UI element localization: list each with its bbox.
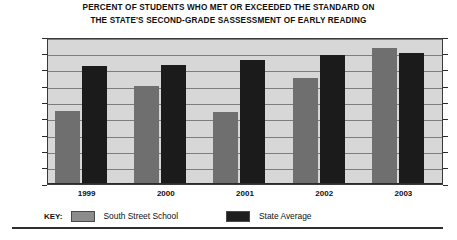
bar-2000-south-street-school [134,86,159,184]
x-tick-label-1999: 1999 [47,189,127,198]
bar-2002-south-street-school [293,78,318,184]
bar-2001-south-street-school [213,112,238,184]
legend-item-south-street-school: South Street School [71,211,179,222]
x-tick-label-2001: 2001 [205,189,285,198]
bar-group-2002 [286,39,365,184]
legend-swatch-state-average [226,211,250,222]
chart-plot-wrapper: 90%80%70%60%50%40%30%20%10%0% [47,38,443,185]
y-tick-mark-left-30 [42,136,47,137]
legend-label-south-street-school: South Street School [104,211,179,221]
y-tick-mark-right-60 [443,87,448,88]
legend-swatch-south-street-school [71,211,95,222]
y-tick-mark-left-40 [42,119,47,120]
bar-group-1999 [48,39,127,184]
y-tick-mark-right-10 [443,168,448,169]
x-tick-label-2000: 2000 [126,189,206,198]
y-tick-mark-left-10 [42,168,47,169]
y-tick-mark-left-0 [42,185,47,186]
y-tick-mark-left-70 [42,70,47,71]
y-tick-mark-right-30 [443,136,448,137]
bar-group-2000 [127,39,206,184]
bar-2001-state-average [240,60,265,184]
x-axis-baseline [48,183,442,184]
y-tick-mark-right-20 [443,152,448,153]
y-tick-mark-right-50 [443,103,448,104]
bar-1999-south-street-school [55,111,80,185]
bar-2003-state-average [399,53,424,184]
y-tick-mark-left-50 [42,103,47,104]
legend-key-label: KEY: [44,212,63,221]
bar-1999-state-average [82,66,107,184]
legend-label-state-average: State Average [259,211,311,221]
x-tick-label-2002: 2002 [284,189,364,198]
y-tick-mark-right-40 [443,119,448,120]
y-tick-mark-left-60 [42,87,47,88]
chart-title-line-2: THE STATE'S SECOND-GRADE SASSESSMENT OF … [0,15,457,28]
y-tick-mark-right-70 [443,70,448,71]
bar-2002-state-average [320,55,345,184]
y-tick-mark-left-90 [42,38,47,39]
legend-item-state-average: State Average [226,211,311,222]
y-tick-mark-left-20 [42,152,47,153]
chart-title: PERCENT OF STUDENTS WHO MET OR EXCEEDED … [0,2,457,27]
bar-group-2003 [365,39,443,184]
y-tick-mark-left-80 [42,54,47,55]
x-tick-label-2003: 2003 [363,189,443,198]
y-tick-mark-right-80 [443,54,448,55]
y-tick-mark-right-90 [443,38,448,39]
bar-2003-south-street-school [372,48,397,184]
chart-title-line-1: PERCENT OF STUDENTS WHO MET OR EXCEEDED … [0,2,457,15]
chart-plot-area [47,38,443,185]
bar-2000-state-average [161,65,186,184]
bar-group-2001 [206,39,285,184]
chart-legend: KEY: South Street School State Average [44,209,360,223]
y-tick-mark-right-0 [443,185,448,186]
figure-bottom-rule [12,227,443,229]
